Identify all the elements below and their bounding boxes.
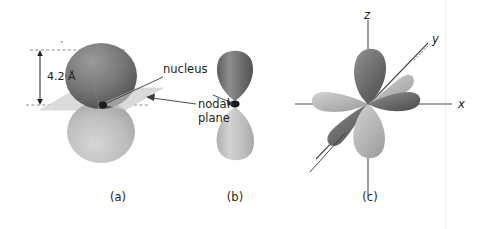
axis-label-z: z xyxy=(364,8,370,22)
orbital-b-upper-lobe xyxy=(217,51,253,101)
axis-label-y: y xyxy=(432,32,439,46)
nodal-plane-leader-line xyxy=(152,98,196,104)
nucleus-label: nucleus xyxy=(163,63,207,76)
nodal-plane-label-line1: nodal xyxy=(198,98,230,111)
panel-a-artwork xyxy=(26,41,196,163)
caption-a: (a) xyxy=(88,190,148,204)
nodal-plane-label-line2: plane xyxy=(198,112,230,125)
orbital-a-lower-lobe xyxy=(67,101,135,163)
speck-mark xyxy=(61,41,63,43)
axis-label-x: x xyxy=(458,97,465,111)
panel-c-y-leader-line xyxy=(414,44,430,60)
panel-c-artwork xyxy=(295,20,452,196)
dimension-arrow-head-bottom xyxy=(37,99,43,105)
caption-c: (c) xyxy=(340,190,400,204)
caption-b: (b) xyxy=(205,190,265,204)
nucleus-dot-a xyxy=(99,102,107,109)
orbital-figure: 4.2 Å nucleus nodal plane z y x (a) (b) … xyxy=(0,0,491,229)
dimension-arrow-head-top xyxy=(37,50,43,56)
dimension-label: 4.2 Å xyxy=(47,70,76,83)
